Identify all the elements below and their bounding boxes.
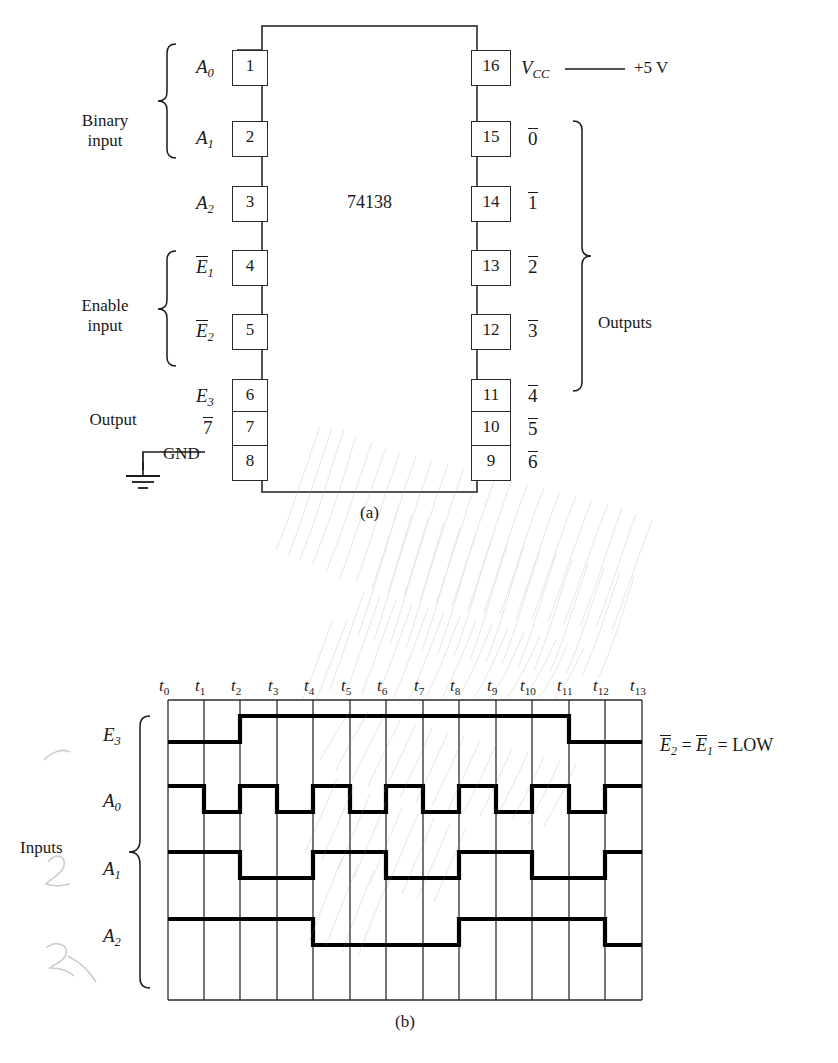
brace-outputs — [573, 121, 591, 391]
pin-number-1: 1 — [232, 56, 268, 76]
ic-body — [262, 26, 477, 492]
pin-signal-e1-bar: E1 — [196, 256, 214, 281]
time-label-t9: t9 — [487, 676, 497, 697]
group-label-outputs: Outputs — [598, 313, 652, 333]
timing-signal-label-a2: A2 — [103, 925, 121, 950]
pin-signal-2-bar: 2 — [528, 256, 538, 278]
pin-number-11: 11 — [471, 385, 511, 405]
brace-timing-inputs — [129, 716, 150, 988]
pin-number-5: 5 — [232, 320, 268, 340]
group-label-binary-input: Binary input — [50, 111, 160, 151]
pin-signal-0-bar: 0 — [528, 128, 538, 150]
pin-number-12: 12 — [471, 320, 511, 340]
binary-input-line2: input — [88, 131, 123, 150]
timing-signal-label-e3: E3 — [103, 724, 121, 749]
ic-part-number: 74138 — [262, 192, 477, 213]
supply-label: +5 V — [634, 58, 668, 78]
time-label-t4: t4 — [304, 676, 314, 697]
time-label-t12: t12 — [593, 676, 609, 697]
panel-b-caption: (b) — [168, 1012, 642, 1032]
pin-number-15: 15 — [471, 127, 511, 147]
enable-input-line1: Enable — [81, 296, 128, 315]
time-label-t10: t10 — [520, 676, 536, 697]
group-label-output: Output — [58, 410, 168, 430]
pin-number-7: 7 — [232, 417, 268, 437]
enable-low-annotation: E2 = E1 = LOW — [660, 735, 773, 759]
gnd-label: GND — [163, 444, 200, 464]
figure-artwork — [0, 0, 838, 1063]
pin-number-9: 9 — [471, 451, 511, 471]
pin-number-2: 2 — [232, 127, 268, 147]
pin-signal-6-bar: 6 — [528, 451, 538, 473]
time-label-t3: t3 — [268, 676, 278, 697]
brace-enable-input — [158, 251, 176, 366]
brace-binary-input — [158, 44, 176, 158]
pin-number-8: 8 — [232, 451, 268, 471]
time-label-t13: t13 — [630, 676, 646, 697]
pin-signal-1-bar: 1 — [528, 192, 538, 214]
time-label-t0: t0 — [159, 676, 169, 697]
pin-signal-a2: A2 — [196, 192, 214, 217]
pin-number-14: 14 — [471, 192, 511, 212]
pin-number-6: 6 — [232, 385, 268, 405]
enable-input-line2: input — [88, 316, 123, 335]
time-label-t8: t8 — [450, 676, 460, 697]
pin-signal-4-bar: 4 — [528, 385, 538, 407]
pin-number-10: 10 — [471, 417, 511, 437]
time-label-t2: t2 — [231, 676, 241, 697]
pin-signal-a1: A1 — [196, 127, 214, 152]
ground-symbol — [126, 462, 160, 488]
waveform-a2 — [168, 919, 642, 945]
waveform-e3 — [168, 716, 642, 742]
pin-signal-5-bar: 5 — [528, 418, 538, 440]
pin-signal-e3: E3 — [196, 385, 214, 410]
time-label-t1: t1 — [195, 676, 205, 697]
pin-signal-vcc: VCC — [521, 57, 549, 82]
group-label-enable-input: Enable input — [50, 296, 160, 336]
pin-signal-e2-bar: E2 — [196, 320, 214, 345]
panel-a-caption: (a) — [262, 503, 477, 523]
pin-number-4: 4 — [232, 256, 268, 276]
handwritten-margin-marks — [44, 750, 96, 982]
waveform-a1 — [168, 852, 642, 878]
waveform-a0 — [168, 786, 642, 812]
timing-group-label-inputs: Inputs — [20, 838, 63, 858]
pin-number-3: 3 — [232, 192, 268, 212]
timing-signal-label-a0: A0 — [103, 790, 121, 815]
pin-number-16: 16 — [471, 56, 511, 76]
pin-signal-3-bar: 3 — [528, 320, 538, 342]
pin-signal-7-bar: 7 — [203, 417, 213, 439]
time-label-t11: t11 — [557, 676, 573, 697]
time-label-t5: t5 — [341, 676, 351, 697]
time-label-t6: t6 — [377, 676, 387, 697]
figure-root: 74138 Binary input Enable input Output G… — [0, 0, 838, 1063]
pin-signal-a0: A0 — [196, 56, 214, 81]
timing-signal-label-a1: A1 — [103, 858, 121, 883]
time-label-t7: t7 — [414, 676, 424, 697]
binary-input-line1: Binary — [82, 111, 128, 130]
pin-number-13: 13 — [471, 256, 511, 276]
